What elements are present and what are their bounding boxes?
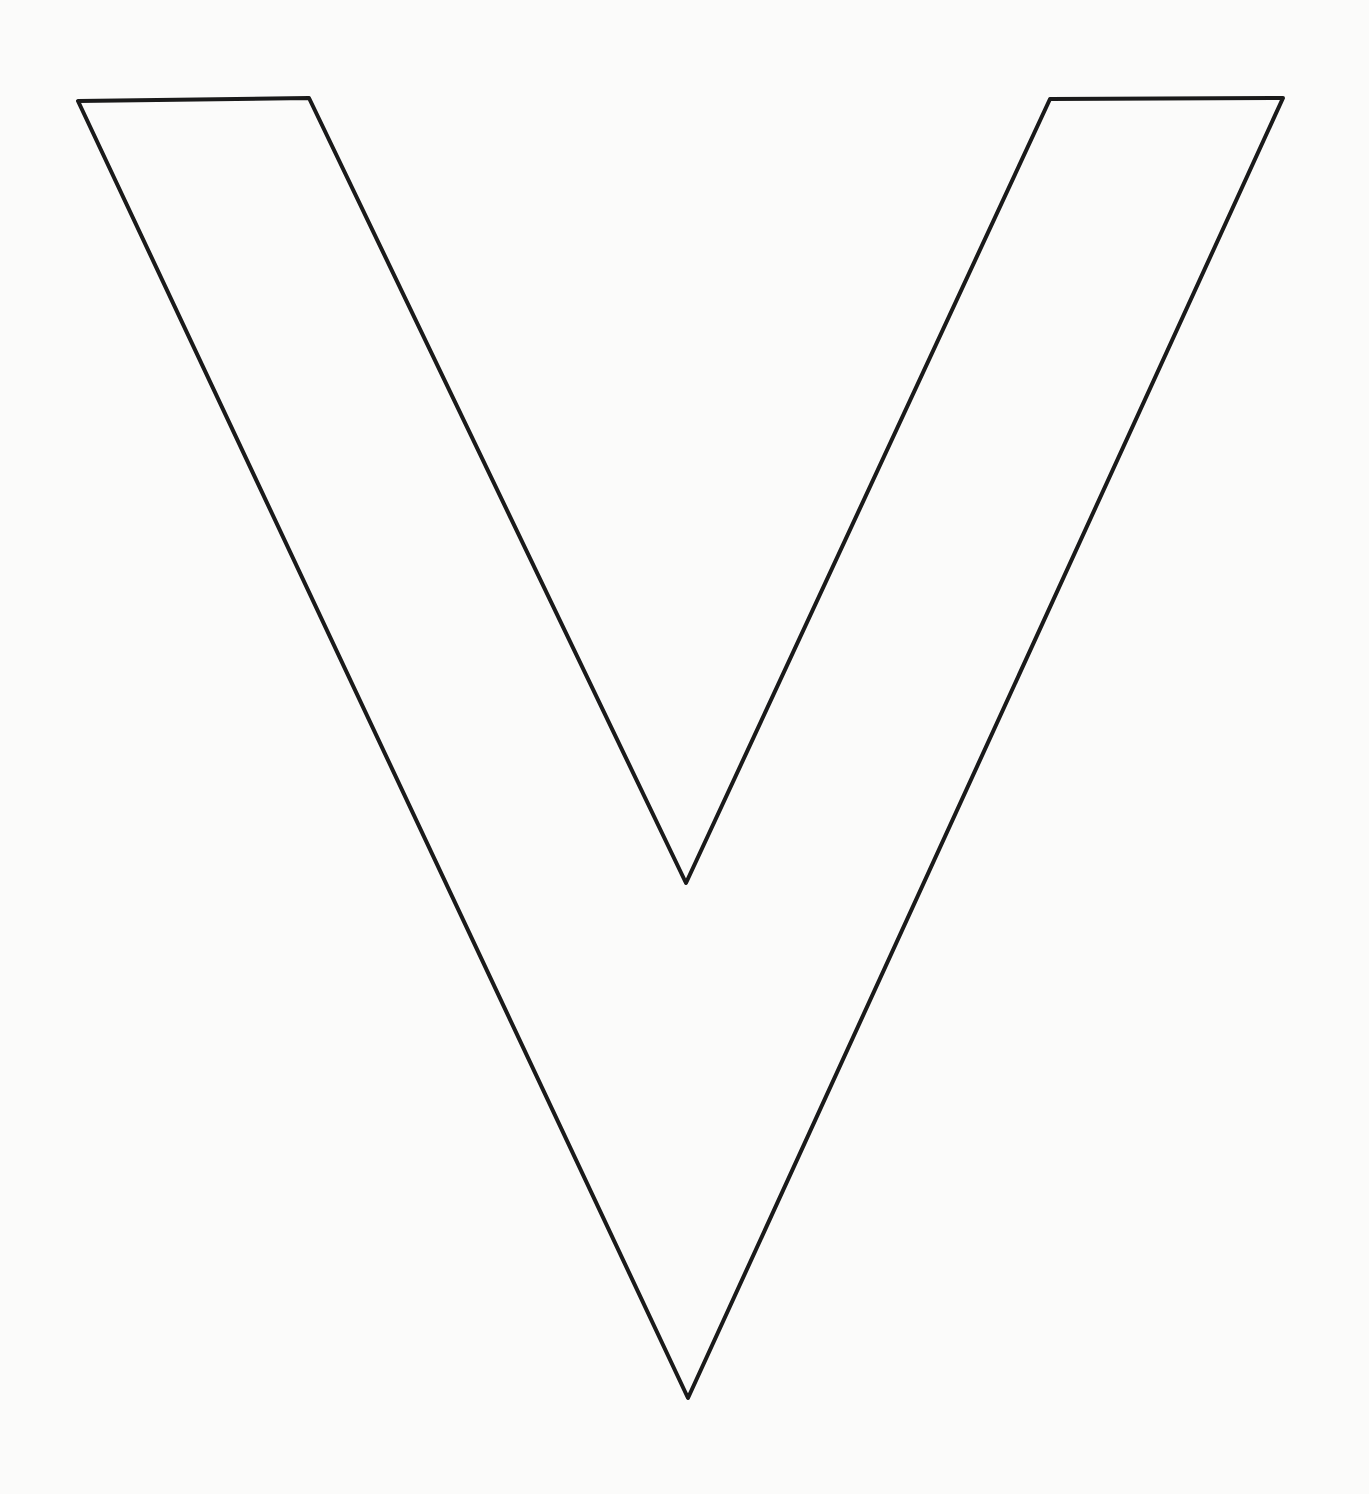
- letter-v-outline: [78, 98, 1283, 1398]
- letter-v-outline-drawing: [0, 0, 1369, 1494]
